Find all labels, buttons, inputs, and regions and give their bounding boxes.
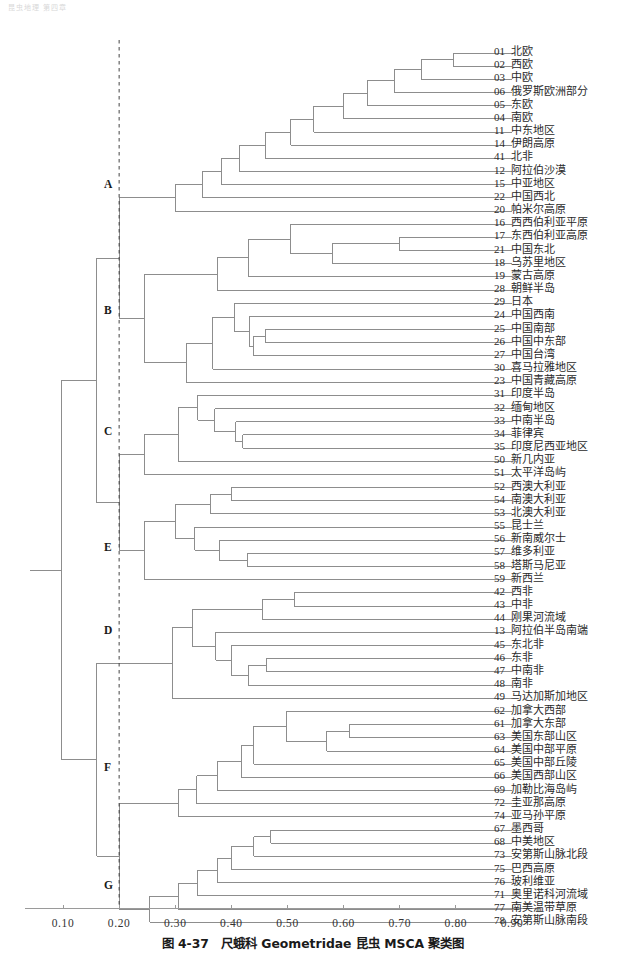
- leaf-label-02: 02西欧: [494, 59, 533, 70]
- leaf-name: 日本: [511, 295, 533, 308]
- figure-caption: 图 4-37 尺蛾科 Geometridae 昆虫 MSCA 聚类图: [0, 934, 626, 952]
- leaf-name: 新西兰: [511, 572, 544, 585]
- leaf-name: 太平洋岛屿: [511, 466, 566, 479]
- leaf-name: 蒙古高原: [511, 269, 555, 282]
- axis-tick-0.30: 0.30: [164, 917, 187, 929]
- leaf-code: 13: [494, 625, 511, 636]
- leaf-code: 76: [494, 876, 511, 887]
- leaf-code: 74: [494, 810, 511, 821]
- leaf-label-28: 28朝鲜半岛: [494, 283, 555, 294]
- leaf-label-47: 47中南非: [494, 665, 544, 676]
- leaf-code: 15: [494, 178, 511, 189]
- leaf-code: 30: [494, 362, 511, 373]
- leaf-label-21: 21中国东北: [494, 244, 555, 255]
- group-label-C: C: [104, 425, 112, 437]
- leaf-name: 南澳大利亚: [511, 493, 566, 506]
- leaf-code: 57: [494, 546, 511, 557]
- leaf-name: 中国南部: [511, 322, 555, 335]
- leaf-name: 墨西哥: [511, 822, 544, 835]
- leaf-code: 26: [494, 336, 511, 347]
- leaf-code: 43: [494, 599, 511, 610]
- axis-tick-0.60: 0.60: [332, 917, 355, 929]
- leaf-code: 52: [494, 481, 511, 492]
- leaf-code: 51: [494, 467, 511, 478]
- group-label-D: D: [104, 624, 112, 636]
- leaf-label-65: 65美国中部丘陵: [494, 757, 577, 768]
- leaf-label-16: 16西西伯利亚平原: [494, 217, 588, 228]
- leaf-name: 加拿大东部: [511, 717, 566, 730]
- axis-tick-0.40: 0.40: [220, 917, 243, 929]
- leaf-name: 亚马孙平原: [511, 809, 566, 822]
- leaf-name: 巴西高原: [511, 862, 555, 875]
- leaf-label-63: 63美国东部山区: [494, 731, 577, 742]
- leaf-code: 35: [494, 441, 511, 452]
- leaf-code: 11: [494, 125, 511, 136]
- leaf-code: 29: [494, 296, 511, 307]
- leaf-name: 圭亚那高原: [511, 796, 566, 809]
- leaf-label-50: 50新几内亚: [494, 454, 555, 465]
- axis-tick-0.10: 0.10: [52, 917, 75, 929]
- leaf-label-03: 03中欧: [494, 72, 533, 83]
- leaf-name: 北非: [511, 150, 533, 163]
- leaf-label-49: 49马达加斯加地区: [494, 691, 588, 702]
- leaf-code: 14: [494, 138, 511, 149]
- leaf-name: 中非: [511, 598, 533, 611]
- leaf-code: 16: [494, 217, 511, 228]
- leaf-label-29: 29日本: [494, 296, 533, 307]
- leaf-label-72: 72圭亚那高原: [494, 797, 566, 808]
- leaf-name: 印度尼西亚地区: [511, 440, 588, 453]
- leaf-label-64: 64美国中部平原: [494, 744, 577, 755]
- leaf-label-17: 17东西伯利亚高原: [494, 230, 588, 241]
- leaf-code: 42: [494, 586, 511, 597]
- leaf-code: 64: [494, 744, 511, 755]
- leaf-label-22: 22中国西北: [494, 191, 555, 202]
- leaf-label-18: 18乌苏里地区: [494, 257, 566, 268]
- leaf-label-57: 57维多利亚: [494, 546, 555, 557]
- leaf-name: 缅甸地区: [511, 401, 555, 414]
- leaf-code: 32: [494, 402, 511, 413]
- leaf-name: 喜马拉雅地区: [511, 361, 577, 374]
- axis-tick-0.70: 0.70: [388, 917, 411, 929]
- leaf-name: 中南非: [511, 664, 544, 677]
- leaf-label-26: 26中国中东部: [494, 336, 566, 347]
- leaf-code: 53: [494, 507, 511, 518]
- leaf-label-74: 74亚马孙平原: [494, 810, 566, 821]
- leaf-code: 27: [494, 349, 511, 360]
- leaf-label-56: 56新南威尔士: [494, 533, 566, 544]
- leaf-code: 58: [494, 560, 511, 571]
- leaf-code: 45: [494, 639, 511, 650]
- leaf-name: 东西伯利亚高原: [511, 229, 588, 242]
- leaf-code: 01: [494, 46, 511, 57]
- leaf-label-62: 62加拿大西部: [494, 705, 566, 716]
- leaf-name: 中国东北: [511, 243, 555, 256]
- leaf-name: 俄罗斯欧洲部分: [511, 85, 588, 98]
- leaf-name: 美国东部山区: [511, 730, 577, 743]
- leaf-code: 34: [494, 428, 511, 439]
- leaf-name: 美国西部山区: [511, 769, 577, 782]
- leaf-name: 玻利维亚: [511, 875, 555, 888]
- leaf-label-23: 23中国青藏高原: [494, 375, 577, 386]
- leaf-label-66: 66美国西部山区: [494, 770, 577, 781]
- leaf-label-30: 30喜马拉雅地区: [494, 362, 577, 373]
- leaf-code: 50: [494, 454, 511, 465]
- leaf-code: 17: [494, 230, 511, 241]
- leaf-name: 西非: [511, 585, 533, 598]
- leaf-name: 加勒比海岛屿: [511, 783, 577, 796]
- leaf-code: 63: [494, 731, 511, 742]
- leaf-code: 06: [494, 86, 511, 97]
- leaf-name: 东非: [511, 651, 533, 664]
- leaf-label-55: 55昆士兰: [494, 520, 544, 531]
- leaf-name: 安第斯山脉北段: [511, 848, 588, 861]
- leaf-name: 塔斯马尼亚: [511, 559, 566, 572]
- leaf-label-58: 58塔斯马尼亚: [494, 560, 566, 571]
- leaf-code: 12: [494, 165, 511, 176]
- leaf-code: 54: [494, 494, 511, 505]
- leaf-label-43: 43中非: [494, 599, 533, 610]
- leaf-name: 东欧: [511, 98, 533, 111]
- leaf-code: 67: [494, 823, 511, 834]
- leaf-label-68: 68中美地区: [494, 836, 555, 847]
- leaf-code: 23: [494, 375, 511, 386]
- leaf-name: 中亚地区: [511, 177, 555, 190]
- leaf-code: 62: [494, 705, 511, 716]
- leaf-label-24: 24中国西南: [494, 309, 555, 320]
